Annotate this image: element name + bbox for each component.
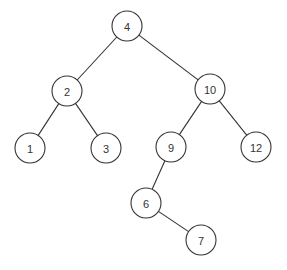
edge-10-9 — [179, 101, 201, 134]
edge-2-1 — [38, 104, 59, 136]
tree-node-7: 7 — [186, 225, 216, 255]
edge-2-3 — [76, 103, 98, 135]
node-label: 9 — [168, 142, 174, 154]
tree-node-9: 9 — [156, 132, 186, 162]
edge-4-10 — [139, 35, 198, 80]
node-label: 3 — [103, 143, 109, 155]
node-label: 1 — [27, 143, 33, 155]
node-label: 2 — [64, 86, 70, 98]
node-label: 10 — [204, 84, 216, 96]
node-label: 7 — [198, 235, 204, 247]
tree-node-10: 10 — [195, 74, 225, 104]
tree-node-4: 4 — [112, 11, 142, 41]
tree-nodes: 42101391267 — [15, 11, 271, 255]
tree-node-12: 12 — [241, 132, 271, 162]
node-label: 12 — [250, 142, 262, 154]
tree-node-6: 6 — [131, 188, 161, 218]
tree-node-3: 3 — [91, 133, 121, 163]
node-label: 4 — [124, 21, 130, 33]
binary-tree-diagram: 42101391267 — [0, 0, 287, 270]
edge-6-7 — [158, 211, 188, 231]
edge-4-2 — [77, 37, 117, 80]
node-label: 6 — [143, 198, 149, 210]
edge-10-12 — [219, 101, 246, 135]
tree-node-2: 2 — [52, 76, 82, 106]
tree-node-1: 1 — [15, 133, 45, 163]
edge-9-6 — [152, 161, 165, 190]
